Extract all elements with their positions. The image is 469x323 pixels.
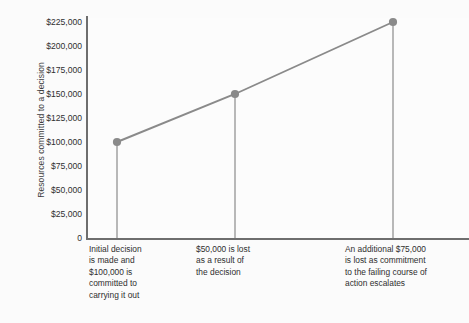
y-tick-label: $225,000 <box>24 17 82 27</box>
y-tick-label: $50,000 <box>24 185 82 195</box>
x-axis-line <box>86 238 469 240</box>
y-tick-label: 0 <box>24 233 82 243</box>
plot-area <box>87 18 469 238</box>
y-tick-label: $125,000 <box>24 113 82 123</box>
y-tick-label: $25,000 <box>24 209 82 219</box>
escalation-of-commitment-chart: Resources committed to a decision 0$25,0… <box>0 0 469 323</box>
y-tick-label: $175,000 <box>24 65 82 75</box>
y-axis-line <box>86 16 88 239</box>
y-tick-label: $200,000 <box>24 41 82 51</box>
y-axis-tick-labels: 0$25,000$50,000$75,000$100,000$125,000$1… <box>24 0 82 240</box>
annotation-first-loss: $50,000 is lost as a result of the decis… <box>196 244 300 278</box>
annotation-initial-decision: Initial decision is made and $100,000 is… <box>89 244 185 301</box>
annotation-escalation: An additional $75,000 is lost as commitm… <box>345 244 469 290</box>
y-tick-label: $150,000 <box>24 89 82 99</box>
y-tick-label: $75,000 <box>24 161 82 171</box>
y-tick-label: $100,000 <box>24 137 82 147</box>
